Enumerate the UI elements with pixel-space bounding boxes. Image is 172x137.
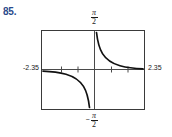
plot-area xyxy=(41,30,145,110)
y-axis-max-label: π 2 xyxy=(83,9,105,26)
plot-svg xyxy=(41,30,145,110)
fraction-denominator: 2 xyxy=(91,121,98,129)
figure-container: 85. -2.35 2.35 π 2 xyxy=(0,0,172,137)
fraction-pi-over-two: π 2 xyxy=(91,9,98,26)
fraction-numerator: π xyxy=(91,9,98,17)
y-axis-min-label: − π 2 xyxy=(83,112,105,129)
exercise-number-label: 85. xyxy=(3,6,16,17)
fraction-negative-sign: − xyxy=(86,116,90,124)
x-axis-min-label: -2.35 xyxy=(13,64,39,72)
fraction-denominator: 2 xyxy=(91,18,98,26)
fraction-negative-pi-over-two: − π 2 xyxy=(91,112,98,129)
x-axis-max-label: 2.35 xyxy=(148,64,172,72)
fraction-numerator: π xyxy=(91,112,98,120)
